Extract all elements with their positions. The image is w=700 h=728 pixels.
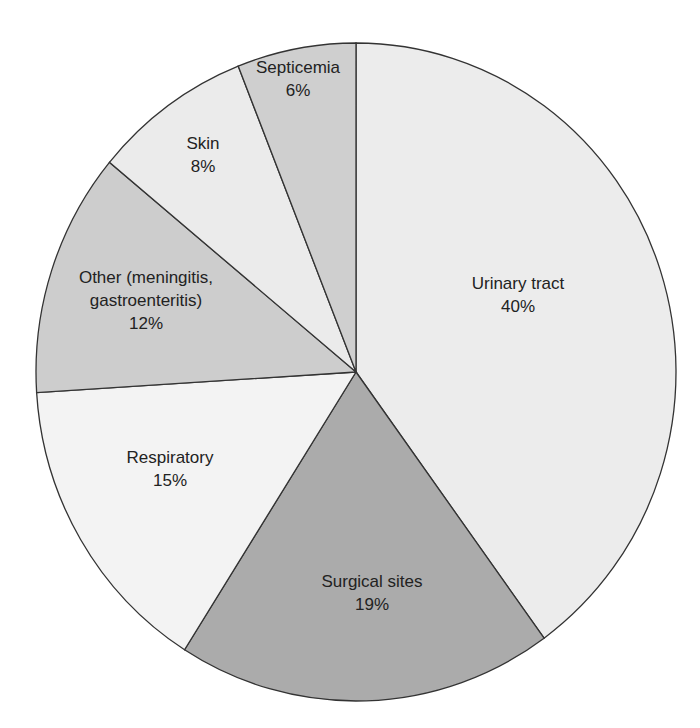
pie-chart: Urinary tract40%Surgical sites19%Respira… [0,0,700,728]
